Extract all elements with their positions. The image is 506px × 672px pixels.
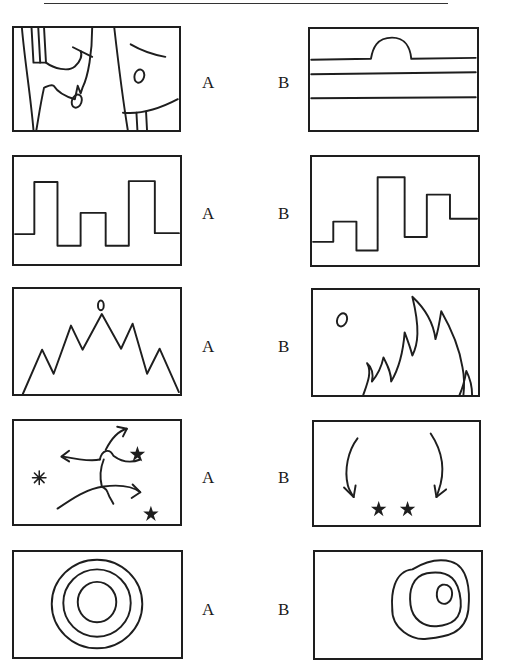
scattered-arrows-and-stars-icon <box>14 421 180 524</box>
figure-5b <box>313 550 483 660</box>
figure-2b <box>310 155 480 267</box>
converging-arrows-and-stars-icon <box>314 422 479 525</box>
figure-5a <box>12 550 183 659</box>
label-4a: A <box>202 469 214 486</box>
label-3a: A <box>202 338 214 355</box>
label-2a: A <box>202 205 214 222</box>
label-5a: A <box>202 601 214 618</box>
label-5b: B <box>278 601 289 618</box>
asymmetric-flame-peaks-icon <box>313 290 478 395</box>
label-1a: A <box>202 74 214 91</box>
figure-1b <box>308 27 479 132</box>
horizon-with-semicircle-icon <box>310 29 477 130</box>
label-2b: B <box>278 205 289 222</box>
figure-3a <box>12 287 182 396</box>
label-4b: B <box>278 469 289 486</box>
offset-nested-circles-icon <box>315 552 481 658</box>
symmetric-mountain-peaks-icon <box>14 289 180 394</box>
asymmetric-square-wave-icon <box>312 157 478 265</box>
header-rule <box>44 3 448 4</box>
figure-3b <box>311 288 480 397</box>
figure-1a <box>12 26 181 132</box>
concentric-circles-icon <box>14 552 181 657</box>
label-1b: B <box>278 74 289 91</box>
abstract-figure-with-faces-icon <box>14 28 179 130</box>
figure-4a <box>12 419 182 526</box>
label-3b: B <box>278 338 289 355</box>
symmetric-square-wave-icon <box>14 157 180 264</box>
figure-2a <box>12 155 182 266</box>
figure-4b <box>312 420 481 527</box>
